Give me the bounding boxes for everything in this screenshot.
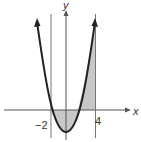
curve-right-arrow-icon [92,18,99,27]
y-axis-label: y [62,0,70,11]
tick-label-4: 4 [95,115,101,127]
shaded-region [51,20,96,132]
tick-label-neg2: −2 [35,119,48,131]
curve-left-arrow-icon [34,18,41,27]
x-axis-label: x [132,105,139,117]
graph-svg: y x −2 4 [0,0,141,142]
x-axis-arrow-icon [125,108,131,113]
parabola-area-figure: y x −2 4 [0,0,141,142]
